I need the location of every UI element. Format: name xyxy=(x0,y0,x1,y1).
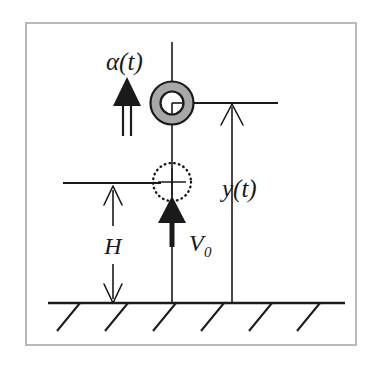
initial-velocity-subscript: 0 xyxy=(204,244,212,260)
height-label: H xyxy=(103,233,123,259)
figure-root: α(t) y(t) H V 0 xyxy=(0,0,379,371)
physics-diagram: α(t) y(t) H V 0 xyxy=(0,0,379,371)
y-of-t-label: y(t) xyxy=(219,175,257,203)
projectile-ring-current xyxy=(151,82,194,125)
canvas-background xyxy=(0,0,379,371)
alpha-label: α(t) xyxy=(106,48,143,76)
